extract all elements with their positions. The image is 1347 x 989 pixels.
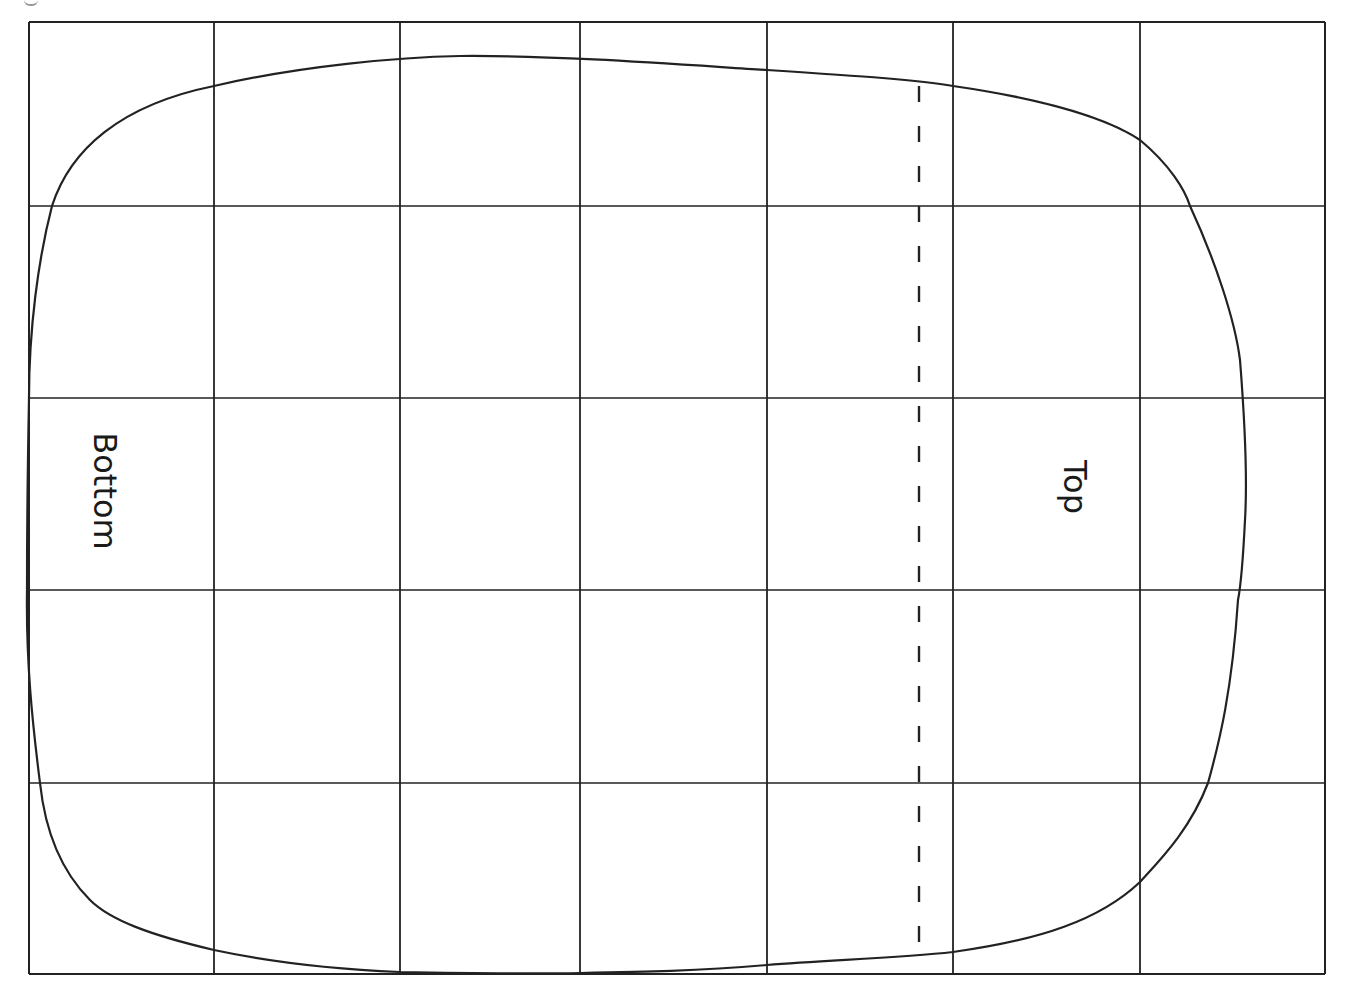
label-top: Top [1056, 447, 1094, 527]
grid-diagram [0, 0, 1347, 989]
grid-lines [29, 22, 1325, 974]
label-bottom: Bottom [86, 426, 124, 556]
